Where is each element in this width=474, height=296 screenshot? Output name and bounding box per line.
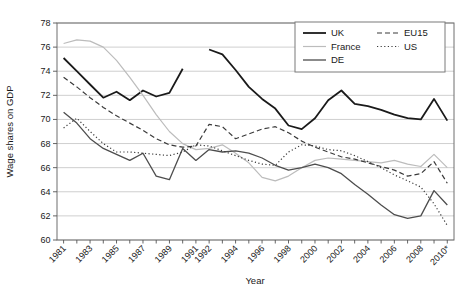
x-tick-label-1996: 1996 [245,243,266,264]
x-tick-label-2006: 2006 [378,243,399,264]
series-line-us [64,118,448,225]
x-tick-label-1985: 1985 [100,243,121,264]
legend: UKFranceDEEU15US [295,22,445,72]
x-tick-labels: 1981198319851987198919911992199419961998… [47,243,452,267]
x-axis-title: Year [245,275,264,286]
x-tick-label-1981: 1981 [47,243,68,264]
y-tick-label-70: 70 [40,114,50,124]
y-tick-label-74: 74 [40,66,50,76]
wage-share-chart: 1981198319851987198919911992199419961998… [0,0,474,296]
legend-label-france: France [331,41,361,52]
x-tick-label-2008: 2008 [404,243,425,264]
y-tick-label-72: 72 [40,90,50,100]
legend-label-de: DE [331,54,344,65]
x-tick-label-1987: 1987 [126,243,147,264]
x-tick-label-2000: 2000 [298,243,319,264]
y-tick-labels: 60626466687072747678 [40,18,50,245]
legend-label-us: US [404,41,417,52]
y-axis-title: Wage shares on GDP [4,85,15,177]
y-tick-label-66: 66 [40,163,50,173]
y-tick-label-60: 60 [40,235,50,245]
x-tick-label-1989: 1989 [153,243,174,264]
x-tick-label-2010: 2010* [428,243,452,267]
legend-label-uk: UK [331,27,345,38]
y-tick-label-68: 68 [40,139,50,149]
y-tick-label-76: 76 [40,42,50,52]
legend-label-eu15: EU15 [404,27,428,38]
x-tick-label-1983: 1983 [73,243,94,264]
x-tick-label-2004: 2004 [351,243,372,264]
x-tick-label-2002: 2002 [325,243,346,264]
y-tick-label-78: 78 [40,18,50,28]
y-tick-label-62: 62 [40,211,50,221]
x-tick-label-1998: 1998 [272,243,293,264]
series-line-de [64,112,448,218]
y-tick-label-64: 64 [40,187,50,197]
x-tick-label-1994: 1994 [219,243,240,264]
wage-share-figure: 1981198319851987198919911992199419961998… [0,0,474,296]
